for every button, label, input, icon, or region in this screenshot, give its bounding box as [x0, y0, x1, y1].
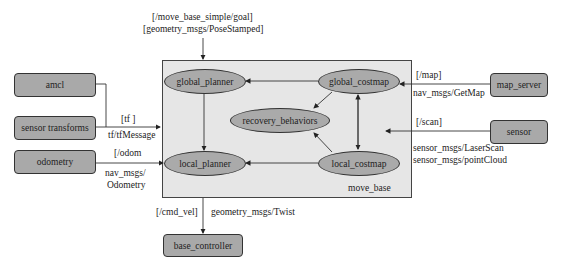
amcl-label: amcl	[46, 80, 64, 90]
base-controller-node: base_controller	[163, 234, 243, 257]
odom-type-label-2: Odometry	[107, 180, 146, 191]
scan-type-label-1: sensor_msgs/LaserScan	[413, 143, 504, 154]
sensor-transforms-label: sensor transforms	[21, 123, 88, 133]
global-costmap-node: global_costmap	[318, 69, 400, 94]
local-planner-label: local_planner	[179, 159, 231, 169]
cmd-vel-topic-label: [/cmd_vel]	[156, 207, 198, 218]
recovery-behaviors-node: recovery_behaviors	[230, 108, 330, 133]
odometry-node: odometry	[14, 150, 96, 174]
scan-topic-label: [/scan]	[416, 117, 442, 128]
recovery-behaviors-label: recovery_behaviors	[243, 116, 318, 126]
local-costmap-label: local_costmap	[332, 159, 387, 169]
global-planner-label: global_planner	[177, 77, 234, 87]
global-planner-node: global_planner	[164, 69, 246, 94]
sensor-transforms-node: sensor transforms	[14, 116, 96, 140]
map-topic-label: [/map]	[416, 70, 441, 81]
goal-type-label: [geometry_msgs/PoseStamped]	[143, 24, 263, 35]
move-base-label: move_base	[348, 183, 391, 194]
map-type-label: nav_msgs/GetMap	[413, 88, 485, 99]
base-controller-label: base_controller	[174, 241, 233, 251]
odometry-label: odometry	[37, 157, 73, 167]
local-costmap-node: local_costmap	[318, 151, 400, 176]
sensor-label: sensor	[507, 127, 531, 137]
amcl-node: amcl	[14, 73, 96, 97]
sensor-node: sensor	[490, 120, 548, 144]
odom-topic-label: [/odom	[114, 148, 141, 159]
map-server-node: map_server	[490, 73, 548, 97]
odom-type-label-1: nav_msgs/	[105, 168, 146, 179]
global-costmap-label: global_costmap	[329, 77, 389, 87]
map-server-label: map_server	[497, 80, 541, 90]
tf-topic-label: [tf ]	[121, 114, 136, 125]
goal-topic-label: [/move_base_simple/goal]	[152, 12, 253, 23]
local-planner-node: local_planner	[164, 151, 246, 176]
scan-type-label-2: sensor_msgs/pointCloud	[413, 155, 507, 166]
tf-type-label: tf/tfMessage	[108, 130, 156, 141]
cmd-vel-type-label: geometry_msgs/Twist	[211, 207, 295, 218]
